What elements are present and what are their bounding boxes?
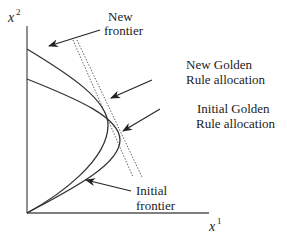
golden-rule-diagram: x 2 x 1 New frontier New Golden Rule all… (0, 0, 287, 238)
arrow-initial-frontier (86, 180, 131, 191)
tangent-initial-golden-rule (77, 40, 142, 177)
arrow-initial-golden-rule (123, 109, 160, 131)
label-initial-golden-line1: Initial Golden (197, 101, 270, 116)
y-axis-label: x (7, 10, 15, 25)
label-new-frontier-line2: frontier (104, 23, 144, 38)
label-initial-frontier-line1: Initial (136, 183, 167, 198)
label-initial-golden-line2: Rule allocation (196, 116, 276, 131)
label-new-frontier-line1: New (108, 9, 133, 24)
x-axis-label: x (208, 219, 216, 234)
label-initial-frontier-line2: frontier (136, 198, 176, 213)
label-new-golden-line2: Rule allocation (186, 72, 266, 87)
x-axis-label-sup: 1 (217, 216, 222, 226)
initial-frontier-curve (27, 79, 120, 213)
label-new-golden-line1: New Golden (186, 57, 253, 72)
y-axis-label-sup: 2 (16, 7, 21, 17)
new-frontier-curve (27, 49, 108, 213)
arrow-new-golden-rule (111, 80, 152, 98)
